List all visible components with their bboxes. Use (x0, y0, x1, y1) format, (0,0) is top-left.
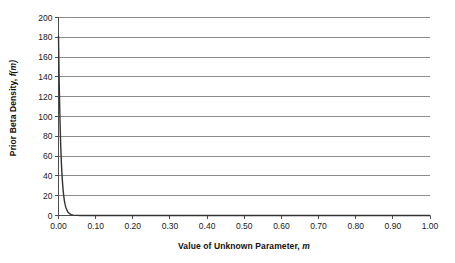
x-tick-label: 0.70 (310, 221, 327, 231)
gridlines (59, 18, 431, 196)
plot-area: 020406080100120140160180200 0.000.100.20… (0, 0, 455, 263)
x-tick-label: 0.50 (236, 221, 253, 231)
x-tick-label: 0.90 (385, 221, 402, 231)
x-tick-label: 0.80 (347, 221, 364, 231)
y-tick-label: 100 (38, 112, 52, 122)
y-tick-label: 20 (43, 191, 53, 201)
y-tick-label: 120 (38, 92, 52, 102)
y-tick-label: 140 (38, 72, 52, 82)
y-tick-label: 60 (43, 151, 53, 161)
x-tick-label: 0.60 (273, 221, 290, 231)
y-tick-label: 0 (48, 211, 53, 221)
x-tick-label: 0.00 (50, 221, 67, 231)
y-tick-label: 200 (38, 13, 52, 23)
y-tick-label: 40 (43, 171, 53, 181)
x-tick-labels: 0.000.100.200.300.400.500.600.700.800.90… (50, 221, 438, 231)
y-tick-labels: 020406080100120140160180200 (38, 13, 52, 221)
x-tick-label: 0.20 (125, 221, 142, 231)
y-tick-label: 180 (38, 32, 52, 42)
x-tick-label: 1.00 (422, 221, 439, 231)
y-tick-label: 160 (38, 52, 52, 62)
x-tick-label: 0.10 (87, 221, 104, 231)
y-tick-label: 80 (43, 131, 53, 141)
x-tick-label: 0.40 (199, 221, 216, 231)
x-tick-label: 0.30 (162, 221, 179, 231)
chart-figure: Prior Beta Density, f(m) Value of Unknow… (0, 0, 455, 263)
density-curve (59, 36, 431, 215)
